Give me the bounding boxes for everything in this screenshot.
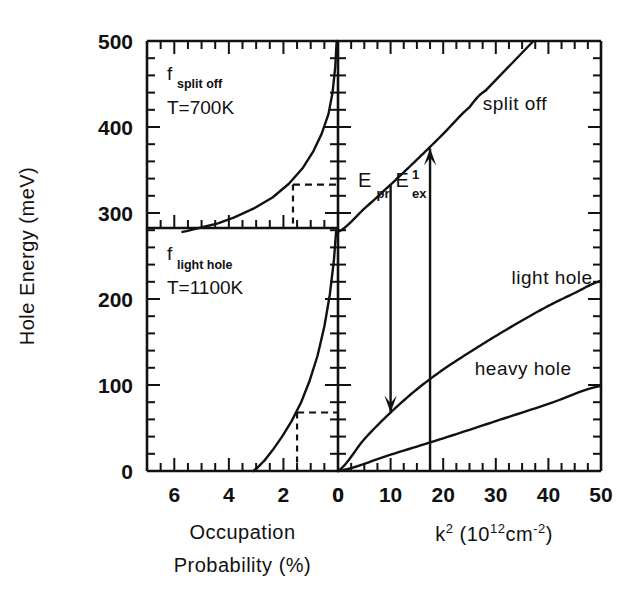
split-off-f-symbol: f: [167, 63, 173, 84]
split-off-temperature-label: T=700K: [167, 97, 234, 118]
heavy-hole-band-label: heavy hole: [475, 358, 572, 379]
y-tick-label: 500: [98, 30, 133, 53]
paren-close: ): [546, 523, 553, 545]
hole-energy-band-figure: 0100200300400500642001020304050EprE1exsp…: [0, 0, 644, 592]
probe-arrow-symbol: E: [358, 169, 371, 191]
x-tick-label-right-panel: 50: [589, 483, 612, 506]
excitation-arrow-superscript: 1: [412, 167, 419, 182]
k-symbol: k: [435, 523, 446, 545]
paren-open-ten: (10: [454, 523, 490, 545]
cm-unit: cm: [505, 523, 533, 545]
x-axis-title-left-line1: Occupation: [189, 521, 295, 543]
y-tick-label: 0: [121, 460, 133, 483]
curve-heavy-hole-band: [338, 386, 601, 471]
curve-f-split-off: [182, 41, 336, 232]
x-tick-label-right-panel: 10: [379, 483, 402, 506]
x-tick-label-right-panel: 30: [484, 483, 507, 506]
curve-split-off-band: [338, 91, 485, 232]
figure-root: 0100200300400500642001020304050EprE1exsp…: [0, 0, 644, 592]
x-tick-label-right-panel: 40: [537, 483, 560, 506]
y-tick-label: 200: [98, 288, 133, 311]
light-hole-temperature-label: T=1100K: [167, 277, 244, 298]
curve-f-light-hole: [253, 232, 336, 471]
light-hole-f-subscript: light hole: [177, 258, 233, 272]
x-tick-label-right-panel: 0: [332, 483, 344, 506]
excitation-arrow-subscript: ex: [412, 186, 427, 201]
probe-arrow-subscript: pr: [377, 186, 390, 201]
light-hole-f-symbol: f: [167, 243, 173, 264]
y-axis-title: Hole Energy (meV): [16, 167, 38, 346]
x-tick-label-left-panel: 2: [278, 483, 290, 506]
ten-exponent: 12: [490, 521, 505, 536]
split-off-f-subscript: split off: [177, 77, 223, 91]
k-exponent: 2: [446, 521, 454, 536]
x-tick-label-right-panel: 20: [432, 483, 455, 506]
y-tick-label: 400: [98, 116, 133, 139]
x-tick-label-left-panel: 6: [168, 483, 180, 506]
x-axis-title-right: k2 (1012cm-2): [435, 521, 553, 545]
x-tick-label-left-panel: 4: [223, 483, 235, 506]
split-off-band-label: split off: [483, 93, 548, 114]
light-hole-band-label: light hole: [512, 267, 593, 288]
x-axis-title-left-line2: Probability (%): [174, 554, 312, 576]
y-tick-label: 300: [98, 202, 133, 225]
cm-exponent: -2: [533, 521, 546, 536]
excitation-arrow-symbol: E: [395, 169, 408, 191]
y-tick-label: 100: [98, 374, 133, 397]
